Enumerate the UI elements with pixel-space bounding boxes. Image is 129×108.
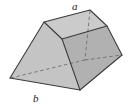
bottom-edge-label-b: b: [33, 93, 39, 104]
top-edge-label-a: a: [72, 1, 78, 12]
frustum-diagram: [0, 0, 129, 108]
geometry-figure: a b: [0, 0, 129, 108]
